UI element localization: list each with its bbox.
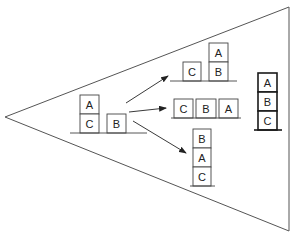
block-c-label: C <box>264 115 272 127</box>
arrow-to-bottom <box>133 121 186 153</box>
block-a-label: A <box>225 103 233 115</box>
blocks-world-diagram: A C B C A B C B A B A C <box>0 0 294 235</box>
block-b-label: B <box>202 103 209 115</box>
block-b-label: B <box>198 133 205 145</box>
block-a-label: A <box>198 152 206 164</box>
block-c-label: C <box>86 118 94 130</box>
block-a-label: A <box>86 99 94 111</box>
successor-middle: C B A <box>171 99 241 118</box>
block-a-label: A <box>215 47 223 59</box>
initial-state: A C B <box>70 95 147 133</box>
block-b-label: B <box>113 118 120 130</box>
block-c-label: C <box>188 66 196 78</box>
arrow-to-top <box>126 76 168 103</box>
block-c-label: C <box>198 171 206 183</box>
block-b-label: B <box>215 66 222 78</box>
successor-bottom: B A C <box>190 129 215 186</box>
block-c-label: C <box>180 103 188 115</box>
goal-state: A B C <box>254 73 282 130</box>
block-b-label: B <box>264 96 271 108</box>
search-space-triangle <box>5 7 289 231</box>
block-a-label: A <box>264 77 272 89</box>
arrow-to-middle <box>129 108 166 112</box>
